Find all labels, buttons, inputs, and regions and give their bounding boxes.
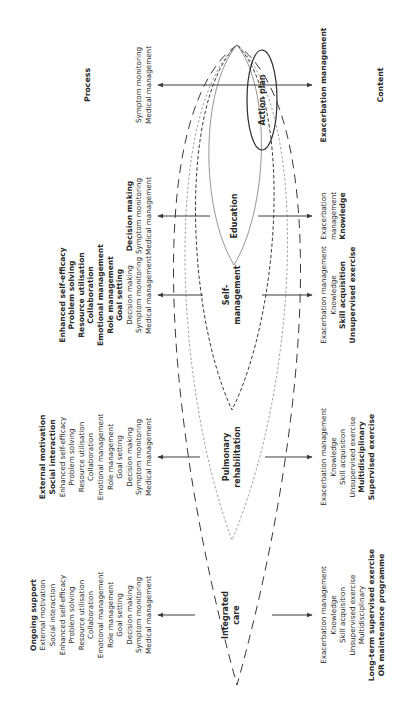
content-item: Skill acquisition [338, 429, 347, 485]
ellipse-integrated-care [174, 45, 301, 685]
process-item: Ongoing support [29, 579, 38, 651]
process-item: Goal setting [115, 435, 124, 479]
process-item: Social interaction [48, 419, 57, 494]
content-item: Unsupervised exercise [348, 574, 357, 656]
process-item: Symptom monitoring [134, 47, 143, 123]
process-item: Enhanced self-efficacy [58, 574, 67, 655]
content-item: Skill acquisition [338, 261, 347, 329]
process-item: Role management [106, 256, 115, 334]
content-axis-label: Content [376, 67, 385, 102]
process-item: Decision making [125, 427, 134, 487]
content-item: management [329, 192, 338, 240]
process-item: Decision making [125, 181, 134, 251]
process-item: Symptom monitoring [134, 257, 143, 333]
content-item: Multidisciplinary [357, 421, 366, 492]
content-item: OR maintenance programme [377, 554, 386, 677]
process-item: Emotional management [96, 414, 105, 501]
label-self-management-2: management [233, 265, 242, 324]
process-item: External motivation [38, 415, 47, 500]
content-item: Exacerbation management [319, 566, 328, 664]
diagram-canvas: Process Content Action plan Education Se… [0, 0, 402, 709]
label-education: Education [230, 193, 239, 238]
process-item: Medical management [144, 418, 153, 496]
process-item: Medical management [144, 256, 153, 334]
process-item: Decision making [125, 585, 134, 645]
process-item: Emotional management [96, 572, 105, 659]
process-item: Problem solving [67, 586, 76, 643]
process-item: Social interaction [48, 584, 57, 646]
process-item: Resource utilisation [77, 422, 86, 493]
label-pulmonary-2: rehabilitation [233, 426, 242, 488]
process-lists: Symptom monitoringMedical managementDeci… [29, 46, 153, 658]
process-item: Collaboration [86, 591, 95, 639]
content-item: Knowledge [329, 437, 338, 477]
content-item: Exacerbation management [319, 246, 328, 344]
process-item: Symptom monitoring [134, 178, 143, 254]
diagram-svg: Process Content Action plan Education Se… [0, 0, 402, 709]
content-item: Exacerbation [319, 192, 328, 239]
process-item: Decision making [125, 265, 134, 325]
content-item: Knowledge [329, 275, 338, 315]
content-item: Unsupervised exercise [348, 416, 357, 498]
process-item: Medical management [144, 177, 153, 255]
process-item: Resource utilisation [77, 580, 86, 651]
content-item: Supervised exercise [367, 414, 376, 500]
process-item: Collaboration [86, 433, 95, 481]
content-item: Long-term supervised exercise [367, 549, 376, 681]
process-item: Problem solving [67, 260, 76, 329]
content-item: Multidisciplinary [357, 585, 366, 644]
process-item: Goal setting [115, 269, 124, 321]
process-item: Symptom monitoring [134, 419, 143, 495]
content-item: Unsupervised exercise [348, 247, 357, 344]
process-item: Role management [106, 582, 115, 648]
content-item: Exacerbation management [319, 408, 328, 506]
label-action-plan: Action plan [258, 74, 267, 125]
process-item: Symptom monitoring [134, 577, 143, 653]
process-item: Collaboration [86, 266, 95, 324]
content-lists: Exacerbation managementExacerbationmanag… [319, 27, 386, 681]
process-item: Problem solving [67, 428, 76, 485]
label-integrated-2: care [232, 605, 241, 625]
content-item: Knowledge [329, 595, 338, 635]
label-integrated-1: Integrated [221, 591, 230, 639]
process-item: Medical management [144, 576, 153, 654]
process-item: Medical management [144, 46, 153, 124]
label-pulmonary-1: Pulmonary [222, 432, 231, 481]
process-item: Resource utilisation [77, 252, 86, 338]
process-item: Goal setting [115, 593, 124, 637]
content-item: Knowledge [338, 192, 347, 239]
process-item: External motivation [38, 580, 47, 651]
process-axis-label: Process [83, 68, 92, 102]
rotated-layer: Process Content Action plan Education Se… [29, 27, 386, 685]
process-item: Enhanced self-efficacy [58, 416, 67, 497]
content-item: Skill acquisition [338, 587, 347, 643]
process-item: Role management [106, 424, 115, 490]
content-item: Exacerbation management [319, 27, 328, 142]
process-item: Emotional management [96, 244, 105, 346]
process-item: Enhanced self-efficacy [58, 247, 67, 343]
label-self-management-1: Self- [222, 285, 231, 306]
